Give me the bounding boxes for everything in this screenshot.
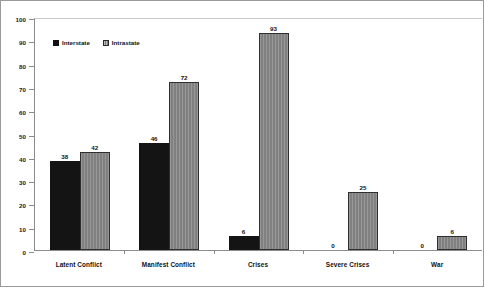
bar-value-label: 0 [331,243,334,249]
bar-value-label: 38 [61,154,68,160]
bar-intrastate-crises[interactable]: 93 [259,33,289,250]
bar-group: 3842 [35,19,124,250]
bar-slot: 0 [407,19,437,250]
legend-label-intrastate: Intrastate [112,39,140,46]
bar-group: 693 [214,19,303,250]
bar-value-label: 46 [151,136,158,142]
bar-intrastate-latent-conflict[interactable]: 42 [80,152,110,250]
x-axis-label-cell: Manifest Conflict [124,252,214,276]
bar-intrastate-manifest-conflict[interactable]: 72 [169,82,199,250]
bar-intrastate-war[interactable]: 6 [437,236,467,250]
bar-interstate-crises[interactable]: 6 [229,236,259,250]
y-axis-tick-label: 90 [19,39,26,46]
x-axis-category-label: Latent Conflict [56,261,102,268]
bar-value-label: 25 [359,185,366,191]
bar-slot: 6 [229,19,259,250]
y-axis-tick-label: 20 [19,202,26,209]
y-axis-tick-label: 40 [19,155,26,162]
y-axis-tick [29,19,34,20]
x-axis-label-cell: Crises [213,252,303,276]
bar-value-label: 93 [270,26,277,32]
y-axis-tick [29,66,34,67]
x-axis-label-cell: War [392,252,482,276]
bar-interstate-manifest-conflict[interactable]: 46 [139,143,169,250]
bar-slot: 0 [318,19,348,250]
bar-slot: 93 [259,19,289,250]
chart-frame: 0102030405060708090100 Interstate Intras… [0,0,484,287]
bar-group: 4672 [124,19,213,250]
bar-slot: 25 [348,19,378,250]
x-axis-category-label: Manifest Conflict [142,261,195,268]
y-axis-tick-label: 60 [19,109,26,116]
bar-slot: 72 [169,19,199,250]
y-axis-tick [29,89,34,90]
legend-item-interstate[interactable]: Interstate [53,39,90,46]
y-axis-tick-label: 50 [19,132,26,139]
y-axis-tick [29,205,34,206]
legend-label-interstate: Interstate [62,39,90,46]
bar-groups: 3842467269302506 [35,19,482,250]
bar-value-label: 42 [91,145,98,151]
bar-value-label: 72 [181,75,188,81]
y-axis-tick [29,159,34,160]
x-axis-labels: Latent ConflictManifest ConflictCrisesSe… [34,252,482,276]
bar-intrastate-severe-crises[interactable]: 25 [348,192,378,250]
bar-interstate-latent-conflict[interactable]: 38 [50,161,80,250]
chart-legend: Interstate Intrastate [53,39,140,46]
bar-group: 025 [303,19,392,250]
y-axis-tick [29,136,34,137]
bar-value-label: 6 [242,229,245,235]
y-axis-tick-label: 10 [19,225,26,232]
bar-slot: 6 [437,19,467,250]
plot-area: 0102030405060708090100 Interstate Intras… [34,18,482,251]
y-axis-tick-label: 0 [22,249,26,256]
bar-slot: 38 [50,19,80,250]
y-axis-tick-label: 80 [19,62,26,69]
bar-group: 06 [393,19,482,250]
y-axis-tick [29,112,34,113]
bar-slot: 46 [139,19,169,250]
y-axis-tick [29,229,34,230]
gray-square-icon [103,40,109,46]
black-square-icon [53,40,59,46]
bar-value-label: 6 [451,229,454,235]
x-axis-label-cell: Severe Crises [303,252,393,276]
bar-slot: 42 [80,19,110,250]
y-axis-tick-label: 100 [15,16,26,23]
x-axis-category-label: Severe Crises [326,261,370,268]
legend-item-intrastate[interactable]: Intrastate [103,39,140,46]
x-axis-label-cell: Latent Conflict [34,252,124,276]
x-axis-category-label: War [431,261,443,268]
y-axis-tick-label: 30 [19,179,26,186]
bar-value-label: 0 [421,243,424,249]
x-axis-category-label: Crises [248,261,268,268]
y-axis-tick-label: 70 [19,85,26,92]
y-axis-tick [29,182,34,183]
y-axis-tick [29,42,34,43]
